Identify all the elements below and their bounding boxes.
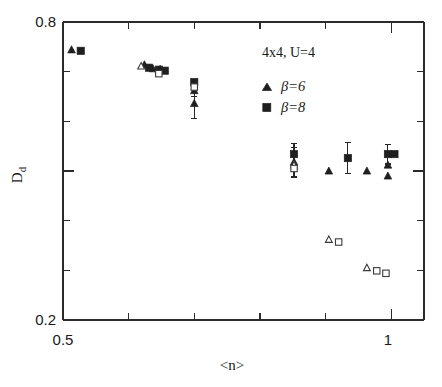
ytick-label-min: 0.2 (35, 311, 56, 328)
marker-square (391, 151, 398, 158)
marker-square (291, 165, 297, 171)
y-axis-title: Dd (9, 166, 28, 183)
legend: 4x4, U=4 β=6 β=8 (262, 45, 315, 115)
svg-text:Dd: Dd (9, 166, 28, 183)
marker-square (156, 70, 162, 76)
plot-canvas: 0.8 0.2 0.5 1 Dd <n> 4x4, U=4 β=6 β=8 (0, 0, 442, 387)
series-beta=6 (68, 46, 392, 179)
plot-frame (63, 22, 424, 320)
marker-triangle (190, 99, 198, 106)
tick-marks (63, 22, 424, 320)
marker-triangle (384, 172, 392, 179)
y-axis-title-main: D (9, 172, 25, 183)
marker-triangle (363, 167, 371, 174)
marker-triangle (363, 264, 370, 270)
scatter-plot-figure: 0.8 0.2 0.5 1 Dd <n> 4x4, U=4 β=6 β=8 (0, 0, 442, 387)
marker-triangle (325, 167, 333, 174)
legend-triangle-icon (262, 83, 271, 91)
x-axis-title: <n> (220, 357, 244, 373)
marker-square (191, 84, 197, 90)
data-points-layer (68, 46, 398, 277)
series-beta=8 (77, 47, 398, 173)
marker-square (145, 64, 152, 71)
y-axis-title-sub: d (16, 166, 28, 172)
marker-square (384, 151, 391, 158)
marker-triangle (68, 46, 76, 53)
marker-square (383, 270, 389, 276)
xtick-label-min: 0.5 (53, 331, 74, 348)
legend-label-beta6: β=6 (280, 78, 306, 94)
legend-header: 4x4, U=4 (262, 45, 315, 60)
legend-square-icon (263, 104, 271, 112)
marker-triangle (325, 236, 332, 242)
marker-square (374, 268, 380, 274)
marker-square (77, 47, 84, 54)
marker-square (290, 151, 297, 158)
marker-square (335, 239, 341, 245)
xtick-label-max: 1 (384, 331, 392, 348)
marker-square (344, 154, 351, 161)
legend-label-beta8: β=8 (280, 99, 306, 115)
series-beta=8-open (156, 70, 390, 276)
ytick-label-max: 0.8 (35, 13, 56, 30)
